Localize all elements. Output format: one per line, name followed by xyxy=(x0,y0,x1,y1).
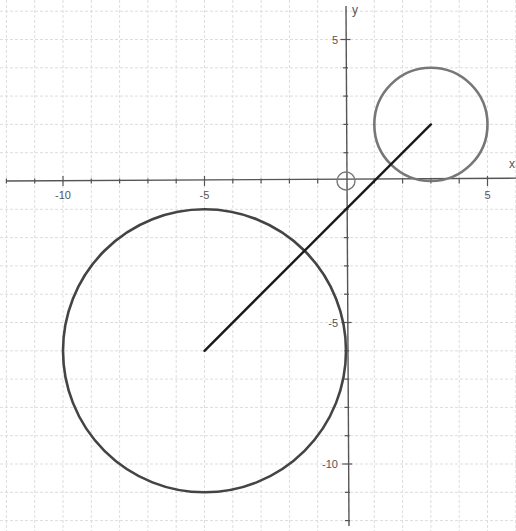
axis-ticks xyxy=(6,40,487,521)
tick-labels: -10-555-5-10 xyxy=(55,34,491,471)
y-tick-label: 5 xyxy=(332,34,338,46)
grid-lines xyxy=(0,0,516,531)
x-axis-label: x xyxy=(509,157,515,171)
y-tick-label: -10 xyxy=(322,458,338,470)
y-tick-label: -5 xyxy=(328,317,338,329)
shapes xyxy=(63,68,488,493)
x-tick-label: 5 xyxy=(484,189,490,201)
x-tick-label: -10 xyxy=(55,189,71,201)
origin-marker[interactable] xyxy=(337,172,355,190)
y-axis-label: y xyxy=(352,3,358,17)
coordinate-plane: -10-555-5-10 x y xyxy=(0,0,516,531)
x-tick-label: -5 xyxy=(200,189,210,201)
